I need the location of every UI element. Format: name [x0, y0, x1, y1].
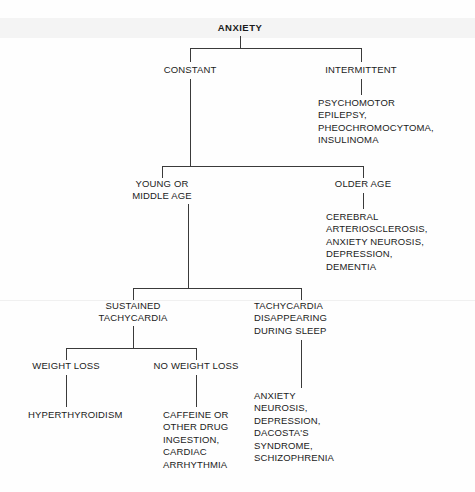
- node-constant: CONSTANT: [164, 64, 217, 76]
- node-older-age-causes: CEREBRAL ARTERIOSCLEROSIS, ANXIETY NEURO…: [326, 211, 428, 273]
- node-tachycardia-disappearing-during-sleep: TACHYCARDIA DISAPPEARING DURING SLEEP: [254, 300, 327, 337]
- connector-constant-stem: [190, 79, 191, 166]
- node-older-age: OLDER AGE: [335, 178, 391, 190]
- connector-root-to-constant: [190, 48, 191, 62]
- connector-to-older-age: [363, 166, 364, 178]
- connector-to-young-middle-age: [162, 166, 163, 178]
- node-intermittent-causes: PSYCHOMOTOR EPILEPSY, PHEOCHROMOCYTOMA, …: [318, 97, 434, 147]
- connector-root-to-intermittent: [361, 48, 362, 62]
- node-intermittent: INTERMITTENT: [325, 64, 396, 76]
- node-weight-loss: WEIGHT LOSS: [32, 360, 99, 372]
- scan-artifact-band-middle: [0, 300, 475, 301]
- connector-no-weight-loss-to-causes: [196, 375, 197, 407]
- connector-to-sustained-tachycardia: [133, 288, 134, 300]
- connector-to-tachycardia-sleep: [301, 288, 302, 300]
- node-tachycardia-sleep-causes: ANXIETY NEUROSIS, DEPRESSION, DACOSTA'S …: [254, 390, 334, 464]
- connector-root-bracket: [190, 48, 361, 49]
- connector-young-middle-age-stem: [188, 204, 189, 288]
- node-weight-loss-causes: HYPERTHYROIDISM: [28, 409, 122, 421]
- connector-intermittent-to-causes: [361, 79, 362, 95]
- node-anxiety-root: ANXIETY: [218, 22, 263, 34]
- anxiety-diagnostic-flowchart: ANXIETY CONSTANT INTERMITTENT PSYCHOMOTO…: [0, 0, 475, 492]
- node-no-weight-loss-causes: CAFFEINE OR OTHER DRUG INGESTION, CARDIA…: [163, 409, 229, 471]
- connector-root-stem: [240, 36, 241, 48]
- connector-age-bracket: [162, 166, 363, 167]
- connector-tachycardia-bracket: [133, 288, 301, 289]
- connector-to-weight-loss: [66, 348, 67, 360]
- node-young-or-middle-age: YOUNG OR MIDDLE AGE: [132, 178, 192, 203]
- node-sustained-tachycardia: SUSTAINED TACHYCARDIA: [98, 300, 167, 325]
- connector-older-age-to-causes: [363, 193, 364, 209]
- connector-tachycardia-sleep-to-causes: [301, 340, 302, 388]
- connector-sustained-tachycardia-stem: [133, 326, 134, 348]
- node-no-weight-loss: NO WEIGHT LOSS: [154, 360, 239, 372]
- connector-weight-loss-bracket: [66, 348, 196, 349]
- connector-to-no-weight-loss: [196, 348, 197, 360]
- connector-weight-loss-to-causes: [66, 375, 67, 407]
